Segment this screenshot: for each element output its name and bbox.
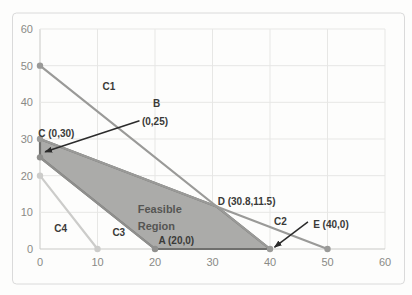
marker-C2	[324, 246, 330, 252]
annotation-d-30-8-11-5: D (30.8,11.5)	[218, 196, 276, 207]
marker-C1	[37, 62, 43, 68]
annotation-feasible: Feasible	[138, 203, 182, 215]
y-tick-label: 60	[21, 23, 33, 35]
annotation-c-0-30: C (0,30)	[38, 128, 74, 139]
marker-C3	[37, 154, 43, 160]
x-tick-label: 30	[206, 256, 218, 268]
annotation-c2: C2	[274, 216, 287, 227]
feasible-region-chart: 01020304050600102030405060C1B(0,25)C (0,…	[0, 0, 412, 295]
annotation-b: B	[153, 98, 160, 109]
annotation-e-40-0: E (40,0)	[313, 219, 349, 230]
chart-figure: 01020304050600102030405060C1B(0,25)C (0,…	[0, 0, 412, 295]
y-tick-label: 30	[21, 133, 33, 145]
annotation-c1: C1	[103, 81, 116, 92]
x-tick-label: 0	[37, 256, 43, 268]
y-tick-label: 20	[21, 170, 33, 182]
annotation-region: Region	[138, 220, 176, 232]
x-tick-label: 20	[149, 256, 161, 268]
annotation-a-20-0: A (20,0)	[158, 235, 194, 246]
marker-C4	[94, 246, 100, 252]
x-tick-label: 10	[91, 256, 103, 268]
marker-C1	[267, 246, 273, 252]
annotation-c3: C3	[112, 227, 125, 238]
annotation-0-25: (0,25)	[142, 116, 168, 127]
y-tick-label: 10	[21, 206, 33, 218]
marker-C3	[152, 246, 158, 252]
marker-C4	[37, 172, 43, 178]
y-tick-label: 0	[27, 243, 33, 255]
x-tick-label: 50	[321, 256, 333, 268]
annotation-c4: C4	[54, 223, 67, 234]
x-tick-label: 40	[264, 256, 276, 268]
y-tick-label: 50	[21, 60, 33, 72]
y-tick-label: 40	[21, 96, 33, 108]
x-tick-label: 60	[379, 256, 391, 268]
